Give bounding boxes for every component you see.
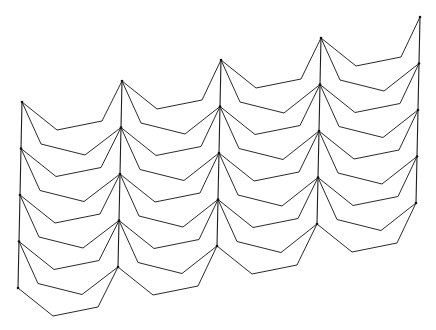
fold-line-upper [221, 38, 321, 88]
vertex-node [419, 16, 422, 19]
vertex-node [219, 105, 222, 108]
vertex-node [17, 287, 20, 290]
fold-line-upper [317, 203, 416, 252]
vertex-node [417, 109, 420, 112]
fold-line-upper [122, 60, 221, 109]
tessellation-diagram [0, 0, 436, 330]
vertex-node [416, 155, 419, 158]
fold-line-upper [120, 153, 219, 202]
fold-line-lower [20, 195, 119, 248]
vertex-node [319, 83, 322, 86]
fold-line-lower [22, 102, 121, 155]
vertex-node [415, 202, 418, 205]
fold-line-upper [321, 17, 420, 66]
vertex-node [316, 223, 319, 226]
fold-line-lower [120, 174, 218, 227]
vertex-node [21, 101, 24, 104]
fold-line-upper [319, 110, 418, 159]
fold-line-lower [21, 149, 120, 202]
fold-line-upper [318, 157, 417, 206]
vertex-node [19, 194, 22, 197]
fold-line-lower [321, 38, 419, 91]
fold-line-upper [119, 200, 218, 249]
vertex-node [216, 245, 219, 248]
vertex-node [220, 59, 223, 62]
vertex-node [217, 198, 220, 201]
vertex-node [119, 173, 122, 176]
fold-line-lower [220, 107, 319, 160]
fold-line-lower [318, 178, 416, 231]
fold-line-lower [319, 131, 417, 184]
vertex-node [120, 126, 123, 129]
fold-line-lower [119, 221, 217, 274]
fold-line-upper [118, 246, 217, 295]
fold-line-lower [320, 85, 418, 138]
fold-line-lower [221, 60, 320, 113]
fold-line-lower [19, 242, 118, 295]
vertex-node [18, 240, 21, 243]
fold-line-lower [122, 81, 220, 134]
vertex-node [218, 152, 221, 155]
vertex-node [121, 80, 124, 83]
fold-line-upper [320, 64, 419, 113]
vertex-node [118, 219, 121, 222]
vertex-nodes [17, 16, 422, 290]
fold-line-lower [219, 153, 318, 206]
fold-line-upper [121, 107, 220, 156]
fold-line-lower [121, 128, 219, 181]
vertex-node [117, 266, 120, 269]
vertex-node [318, 130, 321, 133]
fold-line-lower [218, 200, 317, 253]
vertex-node [317, 176, 320, 179]
vertex-node [20, 147, 23, 150]
fold-line-upper [22, 81, 122, 130]
vertex-node [320, 37, 323, 40]
vertex-node [418, 62, 421, 65]
